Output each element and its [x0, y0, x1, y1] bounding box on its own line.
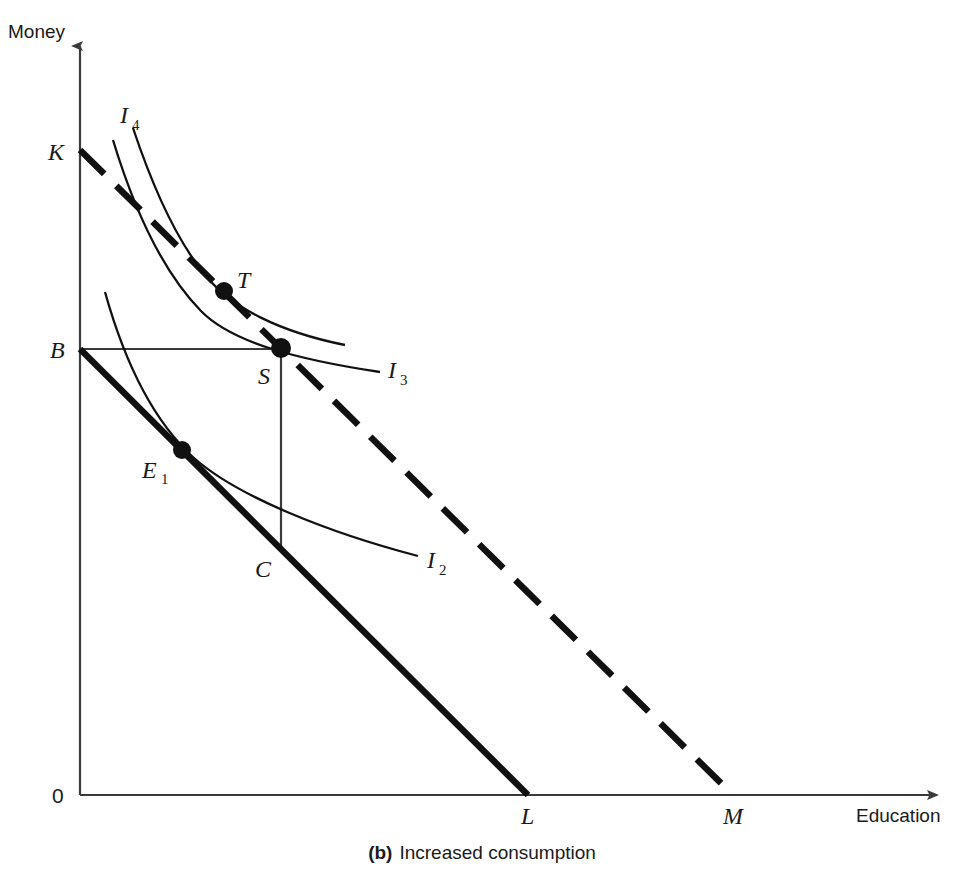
point-label-c: C	[255, 556, 272, 582]
point-label-e1-group: E 1	[141, 457, 169, 487]
curve-label-i3-subscript: 3	[400, 372, 408, 388]
consumer-choice-diagram: Money Education 0 K B T S E 1 C	[0, 0, 964, 888]
point-label-k: K	[47, 139, 66, 165]
curve-label-i4-subscript: 4	[132, 117, 140, 133]
curve-label-i4: I	[119, 102, 129, 128]
point-label-e1-subscript: 1	[161, 471, 169, 487]
curve-label-i3: I	[387, 357, 397, 383]
figure-caption-text: Increased consumption	[399, 842, 595, 863]
budget-line-bl-solid	[80, 349, 528, 795]
point-label-t: T	[237, 267, 252, 293]
point-marker-t	[215, 282, 233, 300]
figure-caption: (b)Increased consumption	[0, 842, 964, 864]
point-label-l: L	[520, 803, 534, 829]
curve-label-i3-group: I 3	[387, 357, 408, 388]
curve-label-i2-subscript: 2	[439, 562, 447, 578]
point-label-b: B	[50, 337, 65, 363]
point-label-m: M	[722, 803, 745, 829]
y-axis-label: Money	[8, 21, 66, 42]
curve-label-i2: I	[426, 547, 436, 573]
point-label-e1: E	[141, 457, 157, 483]
point-marker-s	[271, 338, 291, 358]
point-label-s: S	[258, 363, 270, 389]
figure-caption-tag: (b)	[368, 842, 392, 863]
point-marker-e1	[173, 441, 191, 459]
origin-label: 0	[52, 784, 64, 807]
figure-container: Money Education 0 K B T S E 1 C	[0, 0, 964, 888]
curve-label-i2-group: I 2	[426, 547, 447, 578]
curve-label-i4-group: I 4	[119, 102, 140, 133]
x-axis-label: Education	[856, 805, 941, 826]
budget-line-km-dashed	[80, 150, 733, 795]
indifference-curve-i3	[113, 140, 380, 372]
